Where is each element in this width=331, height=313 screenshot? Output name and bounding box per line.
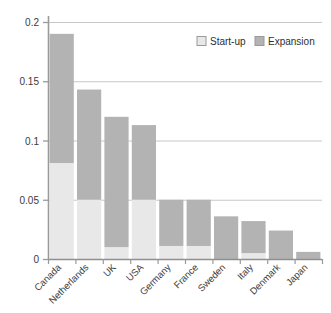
- bar-group: [50, 34, 74, 259]
- legend-item[interactable]: Expansion: [255, 36, 315, 47]
- x-axis-tick-label: Italy: [235, 261, 255, 281]
- x-axis: CanadaNetherlandsUKUSAGermanyFranceSwede…: [32, 259, 323, 306]
- bar-segment: [241, 221, 265, 253]
- bar-segment: [241, 253, 265, 259]
- y-axis-ticks: [43, 23, 48, 260]
- bar-segment: [187, 246, 211, 259]
- bar-group: [241, 221, 265, 259]
- bar-segment: [104, 247, 128, 259]
- bar-group: [214, 216, 238, 259]
- bar-group: [159, 200, 183, 259]
- x-axis-tick-label: USA: [124, 261, 146, 283]
- bar-segment: [269, 231, 293, 259]
- chart-legend: Start-upExpansion: [197, 36, 315, 47]
- bar-group: [77, 90, 101, 259]
- x-axis-tick-label: Japan: [284, 262, 310, 288]
- bar-segment: [159, 246, 183, 259]
- legend-swatch: [197, 37, 206, 46]
- bar-group: [187, 200, 211, 259]
- bars-layer: [50, 34, 321, 259]
- y-axis-tick-labels: 00.050.10.150.2: [20, 17, 40, 265]
- y-axis: 00.050.10.150.2: [20, 16, 49, 265]
- bar-segment: [77, 200, 101, 259]
- legend-item[interactable]: Start-up: [197, 36, 246, 47]
- bar-segment: [214, 216, 238, 259]
- legend-label: Expansion: [268, 36, 315, 47]
- bar-segment: [187, 200, 211, 246]
- bar-segment: [77, 90, 101, 200]
- y-axis-tick-label: 0.05: [20, 195, 40, 206]
- x-axis-tick-label: Denmark: [247, 261, 282, 296]
- x-axis-tick-labels: CanadaNetherlandsUKUSAGermanyFranceSwede…: [32, 261, 310, 306]
- bar-group: [296, 252, 320, 259]
- y-axis-tick-label: 0.2: [25, 17, 39, 28]
- bar-segment: [50, 34, 74, 163]
- bar-segment: [296, 252, 320, 259]
- bar-segment: [159, 200, 183, 246]
- chart-canvas: 00.050.10.150.2 CanadaNetherlandsUKUSAGe…: [0, 0, 331, 313]
- legend-swatch: [255, 37, 264, 46]
- bar-segment: [104, 117, 128, 247]
- y-axis-tick-label: 0.15: [20, 76, 40, 87]
- y-axis-tick-label: 0.1: [25, 136, 39, 147]
- bar-group: [104, 117, 128, 259]
- bar-group: [269, 231, 293, 259]
- y-axis-tick-label: 0: [33, 254, 39, 265]
- stacked-bar-chart: 00.050.10.150.2 CanadaNetherlandsUKUSAGe…: [0, 0, 331, 313]
- bar-segment: [132, 125, 156, 200]
- x-axis-tick-label: Sweden: [195, 262, 227, 294]
- legend-label: Start-up: [210, 36, 246, 47]
- bar-segment: [132, 200, 156, 259]
- bar-group: [132, 125, 156, 259]
- bar-segment: [50, 163, 74, 259]
